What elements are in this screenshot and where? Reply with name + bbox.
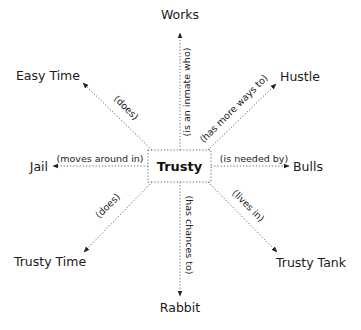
node-works: Works xyxy=(161,7,199,22)
center-node-label: Trusty xyxy=(157,159,203,174)
edge-easy-time xyxy=(83,83,152,150)
node-easy-time: Easy Time xyxy=(16,68,80,83)
node-rabbit: Rabbit xyxy=(160,300,200,315)
relation-rabbit: (has chances to) xyxy=(184,196,195,275)
relation-bulls: (is needed by) xyxy=(220,153,288,164)
node-trusty-time: Trusty Time xyxy=(13,254,87,269)
relation-works: (is an inmate who) xyxy=(181,48,192,137)
relation-trusty-time: (does) xyxy=(93,191,122,220)
node-jail: Jail xyxy=(29,159,48,174)
relation-easy-time: (does) xyxy=(112,93,141,122)
relation-jail: (moves around in) xyxy=(57,153,144,164)
node-hustle: Hustle xyxy=(280,69,320,84)
edge-trusty-time xyxy=(84,182,152,252)
node-trusty-tank: Trusty Tank xyxy=(275,255,347,270)
relation-trusty-tank: (lives in) xyxy=(230,187,267,224)
node-bulls: Bulls xyxy=(293,159,323,174)
concept-diagram: Trusty Works Hustle Easy Time Jail Bulls… xyxy=(0,0,361,330)
relation-hustle: (has more ways to) xyxy=(197,72,270,145)
